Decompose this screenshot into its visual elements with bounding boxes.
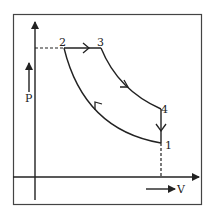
process-3-4 xyxy=(101,48,161,109)
point-label-3: 3 xyxy=(97,36,104,49)
y-axis-label: P xyxy=(25,92,33,105)
pv-diagram: 2 3 4 1 P V xyxy=(0,0,212,210)
process-1-2 xyxy=(64,48,161,143)
x-axis-label: V xyxy=(176,183,186,196)
point-label-2: 2 xyxy=(59,36,66,49)
point-label-1: 1 xyxy=(165,139,172,152)
arrow-1-2-icon xyxy=(95,102,102,110)
diagram-frame xyxy=(14,15,202,205)
point-label-4: 4 xyxy=(161,103,168,116)
